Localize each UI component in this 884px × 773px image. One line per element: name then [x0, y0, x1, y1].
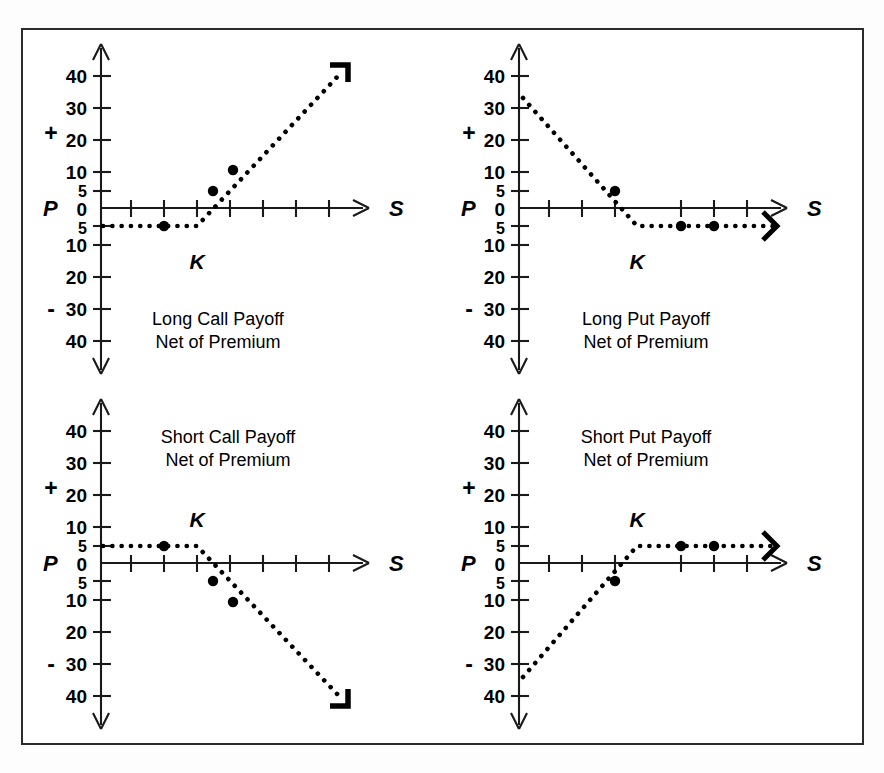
chart-short-put: 40 30 20 10 5 0 5 10 20 30 40 + - P S — [441, 385, 862, 743]
data-point-marker — [228, 597, 238, 607]
y-tick-label-neg-10: 10 — [66, 590, 87, 611]
y-tick-label-neg-10: 10 — [484, 590, 505, 611]
y-tick-label-pos-10: 10 — [484, 162, 505, 183]
data-point-marker — [228, 165, 238, 175]
data-point-marker — [208, 186, 218, 196]
x-axis-label-s: S — [389, 196, 404, 221]
positive-sign: + — [462, 120, 475, 146]
negative-sign: - — [47, 651, 55, 677]
y-tick-label-pos-5: 5 — [496, 183, 505, 200]
y-tick-label-neg-40: 40 — [66, 686, 87, 707]
y-tick-label-neg-20: 20 — [66, 267, 87, 288]
strike-label-k: K — [629, 250, 646, 273]
panel-caption-line-1: Short Put Payoff — [581, 427, 713, 447]
y-tick-label-neg-20: 20 — [484, 267, 505, 288]
y-tick-label-pos-40: 40 — [484, 421, 505, 442]
chart-long-call: 40 30 20 10 5 0 5 10 20 30 40 + - P S — [23, 30, 444, 388]
panel-caption-line-2: Net of Premium — [583, 450, 708, 470]
y-tick-label-pos-10: 10 — [66, 517, 87, 538]
y-tick-label-neg-30: 30 — [66, 654, 87, 675]
strike-label-k: K — [189, 250, 206, 273]
data-point-marker — [208, 576, 218, 586]
y-tick-label-pos-10: 10 — [484, 517, 505, 538]
x-axis-label-s: S — [807, 196, 822, 221]
y-tick-label-neg-10: 10 — [484, 235, 505, 256]
end-cap-corner-bracket-icon — [330, 689, 348, 706]
y-tick-label-pos-30: 30 — [484, 98, 505, 119]
data-point-marker — [610, 186, 620, 196]
negative-sign: - — [465, 651, 473, 677]
panel-caption-line-2: Net of Premium — [583, 332, 708, 352]
positive-sign: + — [44, 120, 57, 146]
panel-long-put: 40 30 20 10 5 0 5 10 20 30 40 + - P S — [441, 30, 862, 388]
y-tick-label-pos-10: 10 — [66, 162, 87, 183]
y-tick-label-pos-30: 30 — [484, 453, 505, 474]
payoff-line-long-call — [103, 75, 339, 226]
payoff-line-short-call — [103, 546, 339, 696]
y-tick-label-neg-40: 40 — [484, 686, 505, 707]
negative-sign: - — [465, 296, 473, 322]
x-axis-label-s: S — [807, 551, 822, 576]
y-tick-label-pos-20: 20 — [66, 485, 87, 506]
y-tick-label-neg-30: 30 — [484, 299, 505, 320]
data-point-marker — [709, 541, 719, 551]
payoff-line-short-put — [523, 546, 777, 677]
payoff-line-long-put — [523, 98, 777, 226]
data-point-marker — [159, 541, 169, 551]
payoff-diagram-figure: 40 30 20 10 5 0 5 10 20 30 40 + - P S — [0, 0, 884, 773]
y-axis-label-p: P — [461, 551, 476, 576]
data-point-marker — [159, 221, 169, 231]
y-tick-label-pos-30: 30 — [66, 453, 87, 474]
y-tick-label-neg-30: 30 — [484, 654, 505, 675]
positive-sign: + — [462, 475, 475, 501]
panel-short-call: 40 30 20 10 5 0 5 10 20 30 40 + - P S — [23, 385, 444, 743]
strike-label-k: K — [189, 508, 206, 531]
y-axis-label-p: P — [461, 196, 476, 221]
panel-caption-line-1: Long Put Payoff — [582, 309, 711, 329]
panel-long-call: 40 30 20 10 5 0 5 10 20 30 40 + - P S — [23, 30, 444, 388]
figure-frame: 40 30 20 10 5 0 5 10 20 30 40 + - P S — [21, 28, 864, 745]
data-point-marker — [676, 541, 686, 551]
y-tick-label-pos-40: 40 — [66, 66, 87, 87]
x-axis-label-s: S — [389, 551, 404, 576]
y-tick-label-pos-30: 30 — [66, 98, 87, 119]
panel-caption-line-1: Long Call Payoff — [152, 309, 285, 329]
panel-caption-line-2: Net of Premium — [155, 332, 280, 352]
y-tick-label-zero: 0 — [76, 199, 87, 220]
y-tick-label-pos-20: 20 — [484, 485, 505, 506]
y-tick-label-pos-20: 20 — [66, 130, 87, 151]
data-point-marker — [709, 221, 719, 231]
y-tick-label-pos-40: 40 — [66, 421, 87, 442]
panel-caption-line-1: Short Call Payoff — [161, 427, 297, 447]
y-tick-label-neg-10: 10 — [66, 235, 87, 256]
y-axis-label-p: P — [43, 551, 58, 576]
y-tick-label-pos-40: 40 — [484, 66, 505, 87]
y-tick-label-neg-20: 20 — [484, 622, 505, 643]
y-tick-label-zero: 0 — [494, 199, 505, 220]
panel-caption-line-2: Net of Premium — [165, 450, 290, 470]
y-tick-label-pos-5: 5 — [496, 538, 505, 555]
chart-long-put: 40 30 20 10 5 0 5 10 20 30 40 + - P S — [441, 30, 862, 388]
positive-sign: + — [44, 475, 57, 501]
y-tick-label-neg-40: 40 — [484, 331, 505, 352]
y-tick-label-pos-5: 5 — [78, 183, 87, 200]
end-cap-corner-bracket-icon — [330, 65, 348, 82]
y-tick-label-zero: 0 — [494, 554, 505, 575]
panel-short-put: 40 30 20 10 5 0 5 10 20 30 40 + - P S — [441, 385, 862, 743]
negative-sign: - — [47, 296, 55, 322]
strike-label-k: K — [629, 508, 646, 531]
y-tick-label-pos-20: 20 — [484, 130, 505, 151]
data-point-marker — [610, 576, 620, 586]
chart-short-call: 40 30 20 10 5 0 5 10 20 30 40 + - P S — [23, 385, 444, 743]
y-tick-label-zero: 0 — [76, 554, 87, 575]
y-tick-label-neg-30: 30 — [66, 299, 87, 320]
y-tick-label-neg-40: 40 — [66, 331, 87, 352]
y-axis-label-p: P — [43, 196, 58, 221]
y-tick-label-neg-20: 20 — [66, 622, 87, 643]
data-point-marker — [676, 221, 686, 231]
y-tick-label-pos-5: 5 — [78, 538, 87, 555]
